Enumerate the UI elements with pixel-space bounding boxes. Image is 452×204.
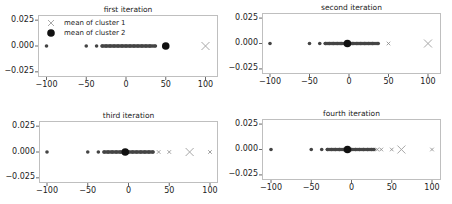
x-tick-label: 100 [202, 186, 217, 195]
subplot-third-iteration: third iteration0.0250.000−0.025−100−5005… [39, 121, 218, 183]
plot-area [262, 13, 441, 74]
legend: mean of cluster 1 mean of cluster 2 [44, 18, 126, 38]
x-tick-label: 100 [424, 183, 439, 192]
x-tick-label: 100 [198, 80, 213, 89]
y-tick-label: −0.025 [224, 63, 258, 72]
subplot-title: second iteration [321, 3, 382, 12]
mean-cluster1-x-icon [424, 40, 432, 48]
y-tick-label: 0.025 [224, 13, 258, 22]
cluster1-point-x-icon [387, 42, 391, 46]
mean-cluster2-dot-icon [121, 148, 129, 156]
mean-cluster2-dot-icon [162, 42, 170, 50]
mean-cluster2-dot-icon [344, 146, 352, 154]
x-tick-label: 100 [420, 77, 435, 86]
subplot-second-iteration: second iteration0.0250.000−0.025−100−500… [262, 13, 441, 74]
mean-cluster1-x-icon [186, 148, 194, 156]
subplot-title: fourth iteration [323, 109, 380, 118]
y-tick-label: −0.025 [1, 172, 35, 181]
cluster1-point-x-icon [167, 150, 171, 154]
x-tick-label: 50 [383, 77, 393, 86]
y-tick-label: 0.025 [1, 121, 35, 130]
filled-circle-icon [44, 28, 58, 38]
y-tick-label: 0.025 [224, 119, 258, 128]
subplot-title: third iteration [103, 111, 155, 120]
x-tick-label: 50 [387, 183, 397, 192]
x-tick-label: 50 [164, 186, 174, 195]
legend-label: mean of cluster 2 [64, 29, 126, 37]
x-tick-label: −100 [36, 80, 58, 89]
y-tick-label: 0.000 [224, 144, 258, 153]
legend-label: mean of cluster 1 [64, 19, 126, 27]
x-tick-label: 0 [123, 80, 128, 89]
x-tick-label: 0 [346, 77, 351, 86]
mean-cluster2-dot-icon [344, 40, 352, 48]
y-tick-label: 0.000 [1, 147, 35, 156]
x-tick-label: −50 [79, 186, 96, 195]
y-tick-label: 0.000 [224, 38, 258, 47]
cluster1-point-x-icon [375, 148, 379, 152]
x-tick-label: 0 [349, 183, 354, 192]
mean-cluster1-x-icon [202, 42, 210, 50]
y-tick-label: −0.025 [224, 169, 258, 178]
cluster1-point-x-icon [390, 148, 394, 152]
y-tick-label: −0.025 [0, 66, 34, 75]
y-tick-label: 0.000 [0, 41, 34, 50]
cluster1-point-x-icon [430, 148, 434, 152]
x-tick-label: 0 [126, 186, 131, 195]
cluster1-point-x-icon [379, 148, 383, 152]
plot-area [262, 119, 441, 180]
x-icon [44, 18, 58, 28]
cluster1-point-x-icon [157, 150, 161, 154]
subplot-fourth-iteration: fourth iteration0.0250.000−0.025−100−500… [262, 119, 441, 180]
cluster1-point-x-icon [208, 150, 212, 154]
x-tick-label: −50 [303, 183, 320, 192]
legend-item-cluster1: mean of cluster 1 [44, 18, 126, 28]
x-tick-label: −100 [260, 183, 282, 192]
plot-area [39, 121, 218, 183]
x-tick-label: −50 [301, 77, 318, 86]
x-tick-label: −100 [36, 186, 58, 195]
subplot-title: first iteration [104, 5, 153, 14]
x-tick-label: −100 [259, 77, 281, 86]
x-tick-label: −50 [78, 80, 95, 89]
legend-item-cluster2: mean of cluster 2 [44, 28, 126, 38]
y-tick-label: 0.025 [0, 15, 34, 24]
x-tick-label: 50 [161, 80, 171, 89]
mean-cluster1-x-icon [397, 146, 405, 154]
